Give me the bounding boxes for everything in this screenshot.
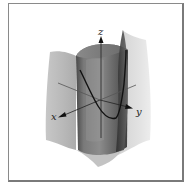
z-axis-label: z	[97, 26, 104, 37]
back-surface-left	[46, 51, 76, 150]
y-axis-label: y	[135, 106, 142, 117]
x-axis-label: x	[51, 111, 57, 122]
z-arrow-icon	[99, 36, 104, 43]
surface-plot: z x y	[0, 0, 191, 186]
